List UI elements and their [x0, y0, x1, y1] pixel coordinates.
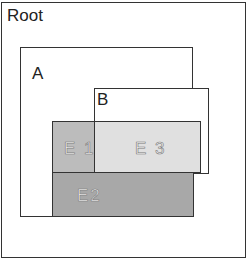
- label-e2: E2: [77, 186, 102, 206]
- label-e1: E 1: [64, 139, 96, 159]
- root-label: Root: [7, 6, 43, 26]
- label-e3: E 3: [135, 139, 167, 159]
- box-e2: [52, 172, 194, 217]
- label-a: A: [32, 64, 43, 84]
- label-b: B: [97, 90, 108, 110]
